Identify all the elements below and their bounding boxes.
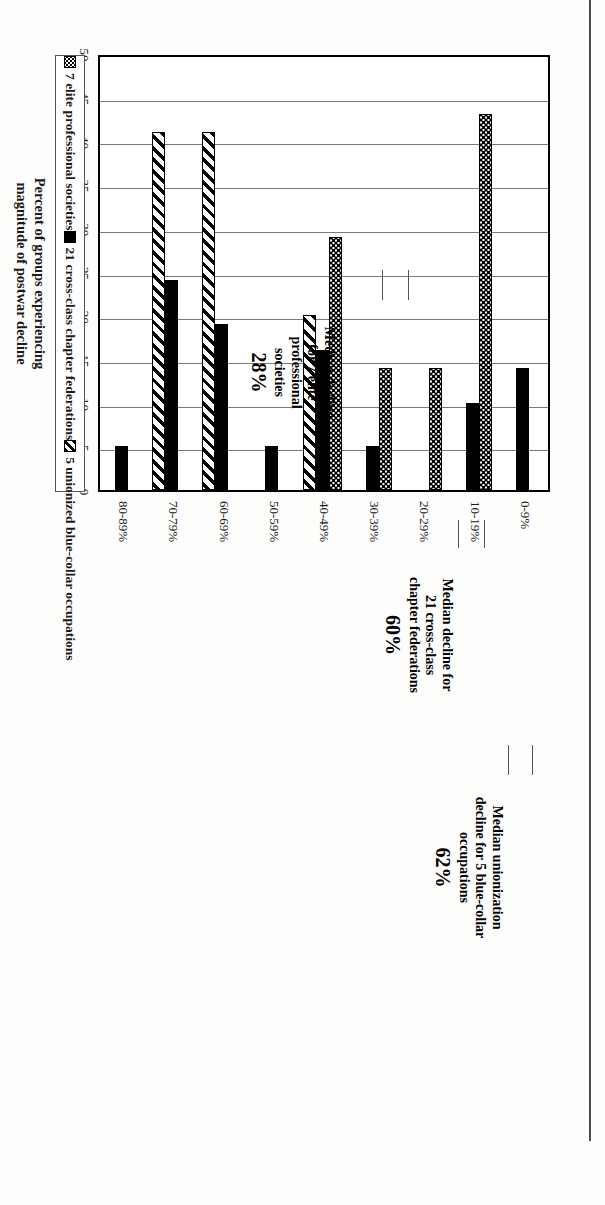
rotated-figure-wrapper: than Elite Professional Societies 051015… [0, 0, 605, 1205]
bar [165, 280, 178, 490]
figure: than Elite Professional Societies 051015… [0, 0, 605, 1205]
category-label-40-49%: 40-49% [316, 501, 332, 542]
annotation-0-line-2: for 7 elite [305, 344, 320, 401]
annotation-0-line-4: societies [272, 348, 287, 397]
category-band [498, 57, 548, 490]
annotation-1-leader-1 [458, 520, 459, 548]
annotation-1-percent: 60% [381, 535, 405, 735]
legend-item-2[interactable]: 5 unionized blue-collar occupations [62, 440, 78, 660]
value-axis-title-line2: magnitude of postwar decline [14, 182, 30, 364]
value-axis-title: Percent of groups experiencing magnitude… [13, 55, 49, 492]
bar [215, 324, 228, 490]
category-label-70-79%: 70-79% [165, 501, 181, 542]
bar [479, 114, 492, 490]
annotation-0: Median declinefor 7 eliteprofessionalsoc… [246, 285, 337, 460]
legend-label-0: 7 elite professional societies [62, 73, 78, 231]
category-label-50-59%: 50-59% [266, 501, 282, 542]
legend: 7 elite professional societies 21 cross-… [55, 55, 85, 492]
annotation-1-line-2: 21 cross-class [423, 595, 438, 675]
category-band [397, 57, 447, 490]
category-band [448, 57, 498, 490]
bar [115, 446, 128, 490]
legend-label-2: 5 unionized blue-collar occupations [62, 457, 78, 660]
annotation-2-leader-1 [508, 745, 509, 775]
bar [516, 368, 529, 490]
category-label-10-19%: 10-19% [467, 501, 483, 542]
annotation-2-percent: 62% [431, 760, 455, 975]
annotation-2-line-3: occupations [457, 832, 472, 903]
category-label-0-9%: 0-9% [517, 501, 533, 529]
category-band [196, 57, 246, 490]
annotation-0-leader-1 [382, 270, 383, 300]
bar [366, 446, 379, 490]
annotation-2-line-2: decline for 5 blue-collar [473, 797, 488, 939]
category-label-80-89%: 80-89% [115, 501, 131, 542]
category-label-30-39%: 30-39% [366, 501, 382, 542]
legend-item-1[interactable]: 21 cross-class chapter federations [62, 231, 78, 441]
legend-swatch-dotted-icon [64, 56, 76, 68]
category-band [96, 57, 146, 490]
annotation-0-line-1: Median decline [322, 327, 337, 418]
bar [429, 368, 442, 490]
bar [202, 132, 215, 490]
category-band [347, 57, 397, 490]
bar [466, 403, 479, 490]
annotation-1: Median decline for21 cross-classchapter … [381, 535, 455, 735]
annotation-2: Median unionizationdecline for 5 blue-co… [431, 760, 505, 975]
legend-label-1: 21 cross-class chapter federations [62, 248, 78, 441]
annotation-0-leader-0 [408, 270, 409, 300]
page-margin-rule [589, 0, 591, 1141]
annotation-1-line-3: chapter federations [407, 577, 422, 693]
value-axis-title-line1: Percent of groups experiencing [32, 178, 48, 370]
category-label-60-69%: 60-69% [216, 501, 232, 542]
annotation-0-line-3: professional [289, 336, 304, 408]
bar [379, 368, 392, 490]
bar [152, 132, 165, 490]
annotation-2-leader-0 [532, 745, 533, 775]
legend-swatch-solid-black-icon [64, 231, 76, 243]
annotation-2-line-1: Median unionization [490, 805, 505, 929]
annotation-1-line-1: Median decline for [440, 579, 455, 692]
annotation-0-percent: 28% [246, 285, 270, 460]
legend-item-0[interactable]: 7 elite professional societies [62, 56, 78, 231]
annotation-1-leader-0 [484, 520, 485, 548]
category-band [146, 57, 196, 490]
legend-swatch-hatch-icon [64, 440, 76, 452]
